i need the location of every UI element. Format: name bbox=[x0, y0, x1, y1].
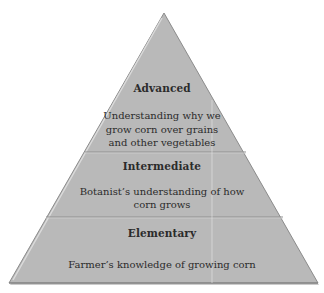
level-title-intermediate: Intermediate bbox=[0, 160, 324, 172]
level-description-intermediate-line-2: corn grows bbox=[0, 198, 324, 212]
level-description-advanced-line-3: and other vegetables bbox=[0, 136, 324, 150]
level-title-elementary: Elementary bbox=[0, 227, 324, 239]
level-description-intermediate-line-1: Botanist’s understanding of how bbox=[0, 185, 324, 199]
level-description-advanced-line-2: grow corn over grains bbox=[0, 123, 324, 137]
level-title-advanced: Advanced bbox=[0, 82, 324, 94]
level-description-advanced-line-1: Understanding why we bbox=[0, 109, 324, 123]
level-description-elementary-line-1: Farmer’s knowledge of growing corn bbox=[0, 258, 324, 272]
